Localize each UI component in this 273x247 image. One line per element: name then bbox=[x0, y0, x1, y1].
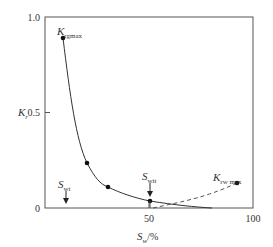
swit-label: Swit bbox=[142, 170, 157, 185]
krw-curve bbox=[153, 183, 237, 208]
relative-permeability-chart: 1.0 0.5 0 50 100 Kr Sw/% Krgmax Krw max … bbox=[0, 0, 273, 247]
swi-arrowhead-icon bbox=[63, 198, 69, 204]
point-krg-2 bbox=[85, 161, 90, 166]
krwmax-label: Krw max bbox=[212, 171, 242, 186]
y-tick-label-0: 0 bbox=[35, 203, 40, 214]
krg-curve bbox=[63, 38, 212, 208]
point-krg-3 bbox=[106, 185, 111, 190]
y-tick-label-05: 0.5 bbox=[28, 107, 41, 118]
x-axis-label: Sw/% bbox=[137, 230, 158, 245]
swi-label: Swi bbox=[58, 178, 71, 193]
swit-arrowhead-icon bbox=[147, 191, 153, 197]
y-tick-label-1: 1.0 bbox=[28, 12, 41, 23]
x-tick-label-100: 100 bbox=[246, 213, 261, 224]
x-tick-label-50: 50 bbox=[144, 213, 154, 224]
krgmax-label: Krgmax bbox=[56, 25, 83, 40]
